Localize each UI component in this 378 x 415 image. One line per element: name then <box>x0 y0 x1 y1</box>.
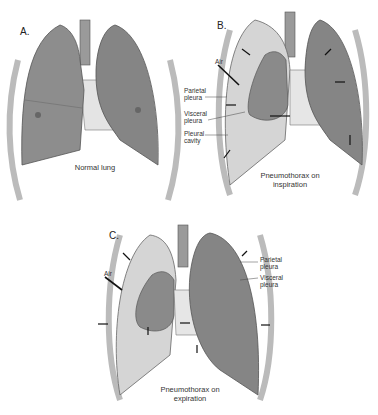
panel-c-caption: Pneumothorax onexpiration <box>150 385 230 403</box>
panel-c-pneumothorax-expiration: C. Air Parietalpleura Visceralpleura Pne… <box>90 205 290 415</box>
pneumothorax-expiration-illustration <box>90 205 290 415</box>
label-pleural-cavity: Pleuralcavity <box>184 130 204 145</box>
label-air: Air <box>104 270 112 277</box>
label-parietal-pleura: Parietalpleura <box>260 256 282 271</box>
panel-b-caption: Pneumothorax oninspiration <box>250 171 330 189</box>
panel-c-letter: C. <box>109 230 119 241</box>
label-air: Air <box>215 58 223 65</box>
label-visceral-pleura: Visceralpleura <box>184 110 207 125</box>
panel-b-pneumothorax-inspiration: B. Air Parietalpleura Visceralpleura Ple… <box>190 0 378 205</box>
panel-a-caption: Normal lung <box>60 163 130 172</box>
label-visceral-pleura: Visceralpleura <box>260 274 283 289</box>
panel-b-letter: B. <box>217 20 226 31</box>
panel-a-letter: A. <box>20 26 29 37</box>
label-parietal-pleura: Parietalpleura <box>184 87 206 102</box>
panel-a-normal-lung: A. Normal lung <box>0 0 190 205</box>
